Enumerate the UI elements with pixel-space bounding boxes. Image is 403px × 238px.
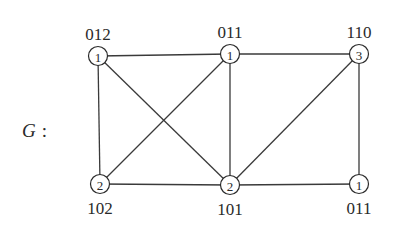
edge-a-d: [98, 56, 100, 184]
node-label: 102: [87, 199, 113, 218]
edge-d-e: [100, 184, 230, 185]
edge-a-b: [98, 54, 230, 56]
graph-node: 1011: [218, 23, 243, 64]
edge-b-d: [100, 54, 230, 184]
graph-node: 1011: [347, 175, 372, 219]
graph-node: 2102: [87, 175, 113, 219]
nodes: 101210113110210221011011: [85, 23, 371, 219]
node-label: 012: [85, 25, 111, 44]
graph-node: 2101: [217, 176, 243, 220]
node-label: 011: [218, 23, 243, 42]
node-weight: 1: [227, 48, 234, 63]
graph-node: 3110: [347, 23, 372, 64]
node-label: 011: [347, 199, 372, 218]
graph-name-label: G:: [22, 120, 47, 141]
node-weight: 1: [95, 50, 102, 65]
node-label: 110: [347, 23, 372, 42]
node-weight: 2: [227, 179, 234, 194]
node-weight: 3: [356, 48, 363, 63]
node-weight: 1: [356, 178, 363, 193]
graph-diagram: 101210113110210221011011 G:: [0, 0, 403, 238]
graph-node: 1012: [85, 25, 111, 66]
node-label: 101: [217, 200, 243, 219]
node-weight: 2: [97, 178, 104, 193]
edges: [98, 54, 359, 185]
edge-e-f: [230, 184, 359, 185]
edge-c-e: [230, 54, 359, 185]
